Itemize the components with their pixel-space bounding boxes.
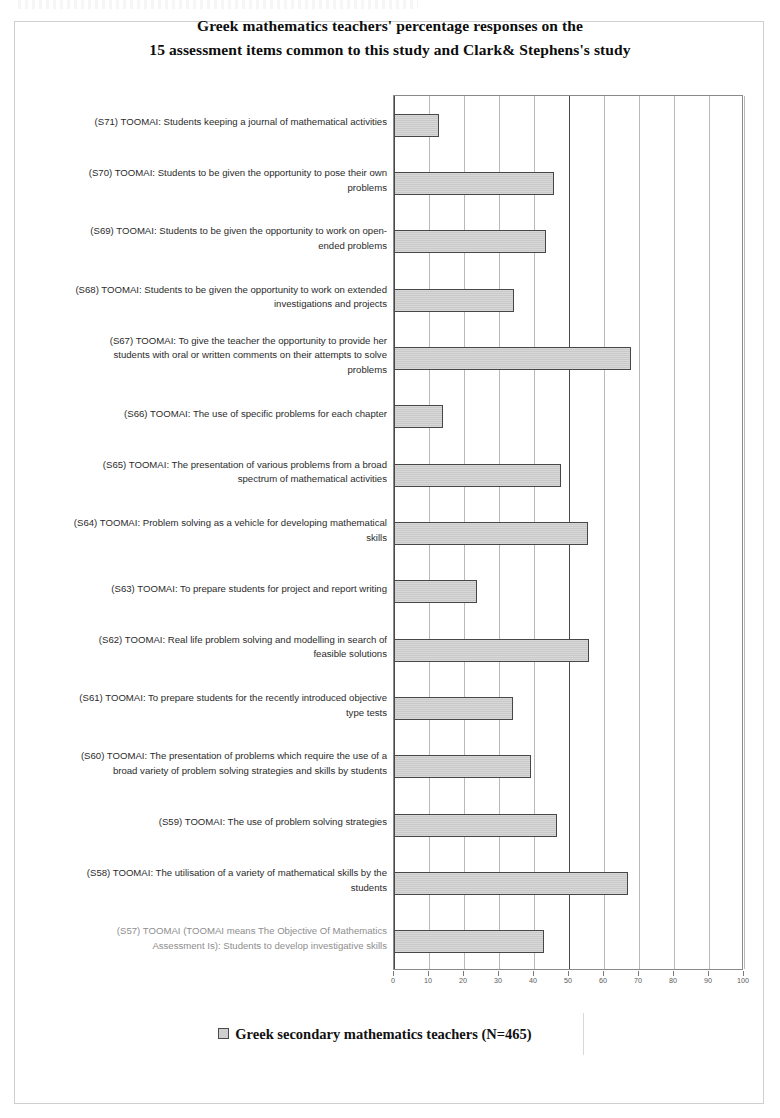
axis-tick-label-80: 80 bbox=[669, 976, 677, 985]
category-label-line: (S60) TOOMAI: The presentation of proble… bbox=[7, 749, 387, 764]
category-label-line: type tests bbox=[7, 706, 387, 721]
bar-row bbox=[394, 738, 742, 796]
category-label-s62: (S62) TOOMAI: Real life problem solving … bbox=[7, 633, 387, 662]
category-label-s70: (S70) TOOMAI: Students to be given the o… bbox=[7, 166, 387, 195]
chart-title-line-1: Greek mathematics teachers' percentage r… bbox=[0, 14, 780, 38]
bar-s63[interactable] bbox=[394, 580, 477, 603]
category-label-line: (S61) TOOMAI: To prepare students for th… bbox=[7, 691, 387, 706]
category-label-line: (S62) TOOMAI: Real life problem solving … bbox=[7, 633, 387, 648]
axis-tick-label-60: 60 bbox=[599, 976, 607, 985]
category-label-line: (S65) TOOMAI: The presentation of variou… bbox=[7, 458, 387, 473]
bar-row bbox=[394, 446, 742, 504]
category-label-line: feasible solutions bbox=[7, 647, 387, 662]
bar-row bbox=[394, 621, 742, 679]
bar-s68[interactable] bbox=[394, 289, 514, 312]
category-label-line: problems bbox=[7, 363, 387, 378]
bar-row bbox=[394, 796, 742, 854]
category-label-line: (S58) TOOMAI: The utilisation of a varie… bbox=[7, 866, 387, 881]
bar-row bbox=[394, 679, 742, 737]
category-label-line: skills bbox=[7, 531, 387, 546]
bar-row bbox=[394, 213, 742, 271]
category-label-s60: (S60) TOOMAI: The presentation of proble… bbox=[7, 749, 387, 778]
category-label-line: ended problems bbox=[7, 239, 387, 254]
chart-title-line-2: 15 assessment items common to this study… bbox=[0, 38, 780, 62]
page-top-artifact bbox=[18, 0, 418, 9]
category-label-s59: (S59) TOOMAI: The use of problem solving… bbox=[7, 815, 387, 830]
bar-row bbox=[394, 388, 742, 446]
category-label-line: (S70) TOOMAI: Students to be given the o… bbox=[7, 166, 387, 181]
axis-tick-label-90: 90 bbox=[704, 976, 712, 985]
chart-title: Greek mathematics teachers' percentage r… bbox=[0, 14, 780, 62]
category-label-s65: (S65) TOOMAI: The presentation of variou… bbox=[7, 458, 387, 487]
category-label-line: (S63) TOOMAI: To prepare students for pr… bbox=[7, 582, 387, 597]
bar-row bbox=[394, 96, 742, 154]
category-label-line: (S69) TOOMAI: Students to be given the o… bbox=[7, 224, 387, 239]
category-label-s71: (S71) TOOMAI: Students keeping a journal… bbox=[7, 115, 387, 130]
bar-row bbox=[394, 913, 742, 971]
category-label-line: investigations and projects bbox=[7, 297, 387, 312]
category-label-s61: (S61) TOOMAI: To prepare students for th… bbox=[7, 691, 387, 720]
bar-row bbox=[394, 154, 742, 212]
bar-s59[interactable] bbox=[394, 814, 557, 837]
axis-tick-label-40: 40 bbox=[529, 976, 537, 985]
legend-entry: Greek secondary mathematics teachers (N=… bbox=[218, 1026, 531, 1043]
value-axis: 0102030405060708090100 bbox=[393, 971, 743, 995]
bar-row bbox=[394, 854, 742, 912]
bar-s71[interactable] bbox=[394, 114, 439, 137]
category-label-line: spectrum of mathematical activities bbox=[7, 472, 387, 487]
axis-tick-label-10: 10 bbox=[424, 976, 432, 985]
bar-s67[interactable] bbox=[394, 347, 631, 370]
category-label-line: (S66) TOOMAI: The use of specific proble… bbox=[7, 407, 387, 422]
category-label-line: (S64) TOOMAI: Problem solving as a vehic… bbox=[7, 516, 387, 531]
bar-s58[interactable] bbox=[394, 872, 628, 895]
bar-s61[interactable] bbox=[394, 697, 513, 720]
legend-label: Greek secondary mathematics teachers (N=… bbox=[235, 1026, 531, 1042]
axis-tick-label-70: 70 bbox=[634, 976, 642, 985]
bar-s70[interactable] bbox=[394, 172, 554, 195]
category-axis-labels: (S71) TOOMAI: Students keeping a journal… bbox=[0, 95, 393, 970]
gridline-100 bbox=[744, 96, 745, 969]
category-label-s63: (S63) TOOMAI: To prepare students for pr… bbox=[7, 582, 387, 597]
bar-s62[interactable] bbox=[394, 639, 589, 662]
category-label-s68: (S68) TOOMAI: Students to be given the o… bbox=[7, 283, 387, 312]
category-label-line: broad variety of problem solving strateg… bbox=[7, 764, 387, 779]
axis-tick-label-20: 20 bbox=[459, 976, 467, 985]
category-label-s58: (S58) TOOMAI: The utilisation of a varie… bbox=[7, 866, 387, 895]
bar-s64[interactable] bbox=[394, 522, 588, 545]
category-label-line: (S59) TOOMAI: The use of problem solving… bbox=[7, 815, 387, 830]
bar-row bbox=[394, 504, 742, 562]
axis-tick-label-0: 0 bbox=[391, 976, 395, 985]
bar-s65[interactable] bbox=[394, 464, 561, 487]
category-label-s69: (S69) TOOMAI: Students to be given the o… bbox=[7, 224, 387, 253]
category-label-line: (S68) TOOMAI: Students to be given the o… bbox=[7, 283, 387, 298]
category-label-line: (S67) TOOMAI: To give the teacher the op… bbox=[7, 334, 387, 349]
category-label-s67: (S67) TOOMAI: To give the teacher the op… bbox=[7, 334, 387, 378]
category-label-line: (S71) TOOMAI: Students keeping a journal… bbox=[7, 115, 387, 130]
bar-rows bbox=[394, 96, 742, 969]
bar-s69[interactable] bbox=[394, 230, 546, 253]
category-label-s66: (S66) TOOMAI: The use of specific proble… bbox=[7, 407, 387, 422]
axis-tick-label-50: 50 bbox=[564, 976, 572, 985]
category-label-line: problems bbox=[7, 181, 387, 196]
category-label-line: students bbox=[7, 881, 387, 896]
category-label-line: Assessment Is): Students to develop inve… bbox=[7, 939, 387, 954]
bar-s57[interactable] bbox=[394, 930, 544, 953]
bar-s66[interactable] bbox=[394, 405, 443, 428]
legend-square-icon bbox=[218, 1028, 229, 1039]
category-label-line: (S57) TOOMAI (TOOMAI means The Objective… bbox=[7, 924, 387, 939]
bar-plot-area bbox=[393, 95, 743, 970]
bar-row bbox=[394, 329, 742, 387]
category-label-s64: (S64) TOOMAI: Problem solving as a vehic… bbox=[7, 516, 387, 545]
chart-legend: Greek secondary mathematics teachers (N=… bbox=[0, 1025, 750, 1043]
bar-s60[interactable] bbox=[394, 755, 531, 778]
category-label-line: students with oral or written comments o… bbox=[7, 348, 387, 363]
axis-tick-label-30: 30 bbox=[494, 976, 502, 985]
axis-tick-label-100: 100 bbox=[737, 976, 749, 985]
bar-row bbox=[394, 271, 742, 329]
bar-row bbox=[394, 563, 742, 621]
chart-plot-wrapper: (S71) TOOMAI: Students keeping a journal… bbox=[0, 95, 750, 1005]
category-label-s57: (S57) TOOMAI (TOOMAI means The Objective… bbox=[7, 924, 387, 953]
